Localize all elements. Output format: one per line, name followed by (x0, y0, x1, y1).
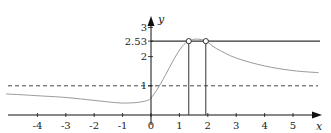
x-tick-label: -1 (118, 120, 128, 131)
function-plot: xy -4-3-2-1012345122.533 (0, 0, 331, 133)
y-tick-label: 3 (141, 22, 147, 33)
x-tick-label: 4 (261, 120, 267, 131)
function-curve-path (6, 39, 318, 103)
x-tick-label: -2 (89, 120, 99, 131)
x-tick-label: 5 (290, 120, 296, 131)
y-axis-arrow-icon (148, 16, 155, 26)
open-circle-marker (203, 39, 208, 44)
function-curve (6, 39, 318, 103)
x-tick-label: 1 (176, 120, 182, 131)
axes: xy (8, 13, 323, 133)
y-tick-label: 1 (141, 80, 147, 91)
annotations (186, 39, 208, 115)
x-tick-label: -3 (61, 120, 71, 131)
x-tick-label: 2 (205, 120, 211, 131)
x-tick-label: 3 (233, 120, 239, 131)
x-tick-label: 0 (148, 120, 154, 131)
open-circle-marker (186, 39, 191, 44)
x-axis-arrow-icon (312, 112, 322, 119)
x-axis-label: x (316, 120, 323, 133)
y-tick-label: 2.53 (125, 36, 147, 47)
x-tick-label: -4 (33, 120, 43, 131)
y-tick-label: 2 (141, 51, 147, 62)
y-axis-label: y (157, 13, 165, 26)
reference-lines (8, 41, 320, 86)
